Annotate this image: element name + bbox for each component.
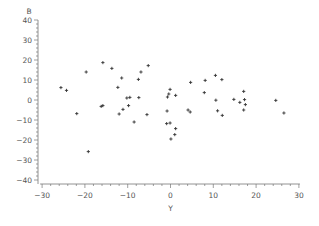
data-point xyxy=(116,86,119,89)
data-point xyxy=(189,110,192,113)
data-point xyxy=(147,64,150,67)
data-point xyxy=(214,99,217,102)
data-points xyxy=(59,61,285,153)
data-point xyxy=(128,96,131,99)
data-point xyxy=(282,111,285,114)
data-point xyxy=(85,70,88,73)
data-point xyxy=(216,109,219,112)
data-point xyxy=(168,88,171,91)
data-point xyxy=(174,127,177,130)
data-point xyxy=(65,89,68,92)
data-point xyxy=(165,122,168,125)
data-point xyxy=(87,150,90,153)
data-point xyxy=(125,96,128,99)
data-point xyxy=(101,61,104,64)
data-point xyxy=(145,113,148,116)
data-point xyxy=(110,67,113,70)
data-point xyxy=(243,98,246,101)
y-tick-label: −10 xyxy=(16,116,32,125)
data-point xyxy=(242,108,245,111)
data-point xyxy=(139,70,142,73)
data-point xyxy=(121,108,124,111)
x-tick-label: −30 xyxy=(34,191,50,200)
data-point xyxy=(186,108,189,111)
y-tick-label: 0 xyxy=(27,96,32,105)
data-point xyxy=(165,109,168,112)
data-point xyxy=(118,112,121,115)
data-point xyxy=(127,104,130,107)
data-point xyxy=(242,90,245,93)
data-point xyxy=(189,81,192,84)
data-point xyxy=(166,95,169,98)
data-point xyxy=(174,94,177,97)
x-tick-label: 10 xyxy=(209,191,219,200)
data-point xyxy=(137,78,140,81)
x-axis: −30−20−100102030 xyxy=(34,184,304,200)
data-point xyxy=(173,133,176,136)
data-point xyxy=(220,78,223,81)
y-tick-label: −30 xyxy=(16,156,32,165)
data-point xyxy=(244,103,247,106)
data-point xyxy=(214,74,217,77)
y-tick-label: 30 xyxy=(22,36,32,45)
y-axis-title: B xyxy=(26,7,31,16)
y-tick-label: 20 xyxy=(22,56,32,65)
data-point xyxy=(274,99,277,102)
data-point xyxy=(221,114,224,117)
y-axis: 403020100−10−20−30−40 xyxy=(16,16,38,185)
data-point xyxy=(204,79,207,82)
data-point xyxy=(120,76,123,79)
x-tick-label: −10 xyxy=(120,191,136,200)
data-point xyxy=(232,98,235,101)
x-tick-label: 30 xyxy=(294,191,304,200)
data-point xyxy=(137,96,140,99)
y-tick-label: 10 xyxy=(22,76,32,85)
data-point xyxy=(59,86,62,89)
x-tick-label: 20 xyxy=(251,191,261,200)
data-point xyxy=(169,137,172,140)
y-tick-label: −20 xyxy=(16,136,32,145)
y-tick-label: −40 xyxy=(16,176,32,185)
x-tick-label: −20 xyxy=(77,191,93,200)
data-point xyxy=(168,121,171,124)
y-tick-label: 40 xyxy=(22,16,32,25)
data-point xyxy=(167,92,170,95)
x-axis-title: Y xyxy=(167,204,173,213)
scatter-chart: 403020100−10−20−30−40 −30−20−100102030 B… xyxy=(0,0,319,226)
data-point xyxy=(238,101,241,104)
data-point xyxy=(203,91,206,94)
x-tick-label: 0 xyxy=(168,191,173,200)
data-point xyxy=(75,112,78,115)
data-point xyxy=(133,120,136,123)
